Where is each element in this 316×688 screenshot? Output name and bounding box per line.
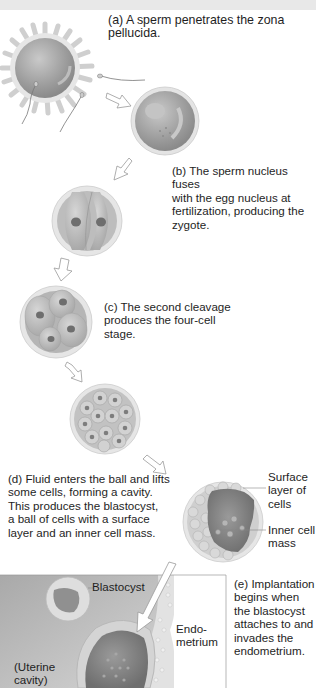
caption-e-line: begins when [234, 590, 315, 603]
blastocyst [183, 482, 263, 562]
caption-d: (d) Fluid enters the ball and lifts some… [8, 472, 170, 539]
label-line: metrium [176, 635, 218, 648]
caption-e-line: endometrium. [234, 644, 315, 657]
caption-e-line: (e) Implantation [234, 577, 315, 590]
caption-e: (e) Implantation begins when the blastoc… [234, 577, 315, 657]
label-line: Inner cell [268, 523, 315, 536]
caption-e-line: attaches to and [234, 617, 315, 630]
label-line: mass [268, 536, 315, 549]
caption-c-line: produces the four-cell [104, 313, 231, 326]
morula [70, 384, 140, 454]
caption-d-line: some cells, forming a cavity. [8, 485, 170, 498]
caption-d-line: (d) Fluid enters the ball and lifts [8, 472, 170, 485]
label-line: Endo- [176, 622, 218, 635]
label-surface-layer: Surface layer of cells [268, 470, 308, 510]
label-uterine-cavity: (Uterine cavity) [14, 660, 55, 687]
caption-d-line: layer and an inner cell mass. [8, 526, 170, 539]
arrow-a-to-b [106, 93, 131, 108]
caption-b-line: zygote. [172, 218, 316, 231]
label-line: Surface [268, 470, 308, 483]
label-blastocyst: Blastocyst [92, 580, 145, 593]
arrow-two-cell-to-four-cell [54, 258, 72, 281]
label-endometrium: Endo- metrium [176, 622, 218, 649]
caption-c: (c) The second cleavage produces the fou… [104, 300, 231, 340]
caption-b: (b) The sperm nucleus fuses with the egg… [172, 164, 316, 231]
label-line: layer of [268, 483, 308, 496]
label-line: (Uterine [14, 660, 55, 673]
arrow-four-cell-to-morula [65, 362, 82, 382]
two-cell-stage [52, 186, 122, 256]
caption-c-line: (c) The second cleavage [104, 300, 231, 313]
caption-e-line: the blastocyst [234, 604, 315, 617]
caption-d-line: a ball of cells with a surface [8, 512, 170, 525]
caption-c-line: stage. [104, 327, 231, 340]
arrow-b-to-c [114, 158, 132, 180]
caption-b-line: with the egg nucleus at [172, 191, 316, 204]
caption-b-line: fertilization, producing the [172, 204, 316, 217]
label-line: cells [268, 497, 308, 510]
label-line: cavity) [14, 673, 55, 686]
zygote [131, 87, 199, 155]
caption-b-line: (b) The sperm nucleus fuses [172, 164, 316, 191]
caption-d-line: This produces the blastocyst, [8, 499, 170, 512]
caption-a: (a) A sperm penetrates the zona pellucid… [108, 14, 316, 41]
label-inner-cell-mass: Inner cell mass [268, 523, 315, 550]
caption-e-line: invades the [234, 631, 315, 644]
four-cell-stage [20, 286, 92, 358]
